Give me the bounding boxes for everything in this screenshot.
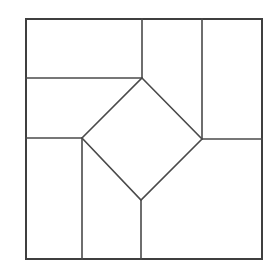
- region-bottom-left: [26, 138, 82, 259]
- pinwheel-block-diagram: [0, 0, 280, 277]
- region-top-right: [202, 19, 262, 139]
- figure-canvas: [0, 0, 280, 277]
- region-top-left: [26, 19, 142, 78]
